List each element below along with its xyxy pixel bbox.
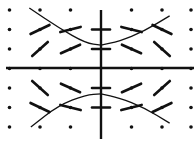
slope-segment (122, 84, 141, 93)
slope-segment (154, 42, 170, 56)
slope-segment (154, 81, 170, 95)
grid-dot (130, 8, 134, 12)
lower-left-solution-curve (31, 94, 101, 127)
grid-dot (160, 125, 164, 129)
grid-dot (189, 8, 193, 12)
grid-dot (130, 125, 134, 129)
slope-segment (32, 42, 48, 56)
grid-dot (8, 28, 12, 32)
grid-dot (160, 8, 164, 12)
slope-segment (121, 27, 141, 32)
grid-dot (8, 106, 12, 110)
slope-segment (153, 103, 172, 112)
grid-dot (8, 125, 12, 129)
slope-field-diagram (0, 0, 194, 149)
slope-segment (32, 81, 48, 95)
slope-segment (31, 103, 50, 112)
grid-dot (8, 47, 12, 51)
slope-segment (31, 25, 50, 34)
upper-left-solution-curve (29, 8, 101, 45)
grid-dot (8, 86, 12, 90)
slope-segment (61, 45, 80, 54)
slope-segment (61, 84, 80, 93)
grid-dot (38, 8, 42, 12)
grid-dot (189, 86, 193, 90)
grid-dot (189, 125, 193, 129)
grid-dot (8, 8, 12, 12)
slope-segment (60, 27, 80, 32)
slope-segment (122, 45, 141, 54)
grid-dot (38, 125, 42, 129)
grid-dot (69, 125, 73, 129)
grid-dot (69, 8, 73, 12)
slope-segment (60, 105, 80, 110)
slope-segment (153, 25, 172, 34)
grid-dot (189, 28, 193, 32)
grid-dot (189, 47, 193, 51)
grid-dot (189, 106, 193, 110)
